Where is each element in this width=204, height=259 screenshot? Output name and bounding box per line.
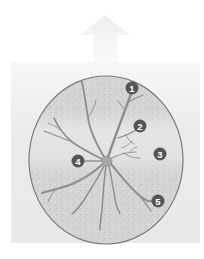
marker-3: 3 bbox=[154, 148, 167, 161]
marker-5-label: 5 bbox=[155, 196, 161, 207]
marker-4-label: 4 bbox=[75, 156, 81, 167]
retina-diagram: 1 2 3 4 5 bbox=[0, 0, 204, 259]
marker-4: 4 bbox=[72, 155, 85, 168]
marker-1-label: 1 bbox=[129, 83, 135, 94]
marker-2: 2 bbox=[134, 120, 147, 133]
marker-5: 5 bbox=[152, 195, 165, 208]
marker-2-label: 2 bbox=[137, 121, 142, 132]
marker-3-label: 3 bbox=[157, 149, 162, 160]
optic-disc bbox=[102, 156, 112, 166]
marker-1: 1 bbox=[126, 82, 139, 95]
